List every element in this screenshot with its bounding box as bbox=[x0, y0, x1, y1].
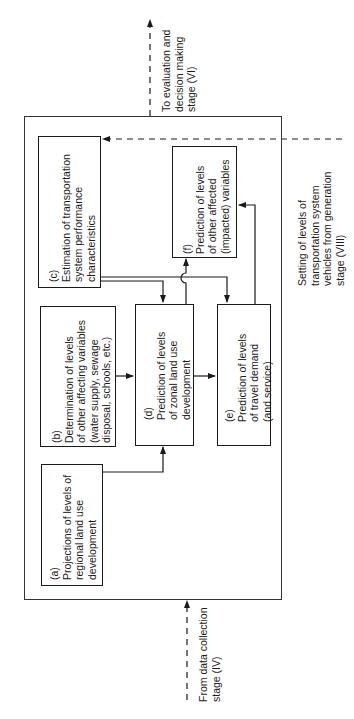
box-d-text: (d) Prediction of levels of zonal land u… bbox=[142, 332, 192, 420]
label-from-data-collection-stage: From data collection stage (IV) bbox=[197, 607, 222, 702]
box-f-text: (f) Prediction of levels of other affect… bbox=[181, 159, 231, 254]
label-to-evaluation-stage: To evaluation and decision making stage … bbox=[160, 30, 198, 112]
box-a-text: (a) Projections of levels of regional la… bbox=[48, 475, 98, 580]
box-e-text: (e) Prediction of levels of travel deman… bbox=[223, 334, 273, 422]
box-b-text: (b) Determination of levels of other aff… bbox=[50, 320, 113, 443]
label-from-generation-stage: Setting of levels of transportation syst… bbox=[296, 172, 346, 286]
box-c-text: (c) Estimation of transportation system … bbox=[47, 154, 97, 282]
